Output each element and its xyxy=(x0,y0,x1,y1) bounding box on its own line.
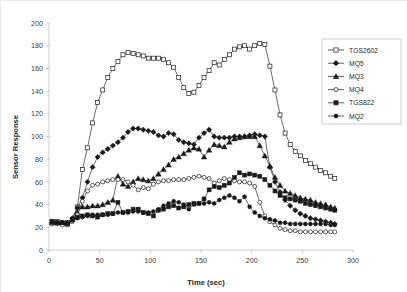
x-tick-label: 150 xyxy=(195,256,207,265)
data-point-marker xyxy=(106,75,110,79)
data-point-marker xyxy=(197,83,201,87)
data-point-marker xyxy=(308,203,312,207)
data-point-marker xyxy=(167,201,171,205)
x-tick-label: 250 xyxy=(296,256,308,265)
data-point-marker xyxy=(126,211,130,215)
data-point-marker xyxy=(329,207,333,211)
data-point-marker xyxy=(187,91,191,95)
y-tick-label: 80 xyxy=(35,155,43,164)
data-point-marker xyxy=(303,201,307,205)
data-point-marker xyxy=(121,211,125,215)
data-point-marker xyxy=(197,201,201,205)
data-point-marker xyxy=(258,214,262,218)
data-point-marker xyxy=(273,189,277,193)
data-point-marker xyxy=(156,180,160,184)
data-point-marker xyxy=(162,57,166,61)
data-point-marker xyxy=(288,222,292,226)
data-point-marker xyxy=(268,183,272,187)
data-point-marker xyxy=(131,183,135,187)
y-tick-label: 200 xyxy=(31,19,43,28)
data-point-marker xyxy=(172,199,176,203)
data-point-marker xyxy=(212,61,216,65)
data-point-marker xyxy=(182,178,186,182)
x-axis-title: Time (sec) xyxy=(187,278,225,287)
legend-label: MQ4 xyxy=(349,86,364,94)
data-point-marker xyxy=(258,200,262,204)
data-point-marker xyxy=(141,186,145,190)
data-point-marker xyxy=(278,113,282,117)
data-point-marker xyxy=(131,52,135,56)
data-point-marker xyxy=(50,221,54,225)
data-point-marker xyxy=(248,181,252,185)
data-point-marker xyxy=(283,221,287,225)
legend-label: TGS822 xyxy=(349,99,375,106)
chart-legend: TGS2602MQ5MQ3MQ4TGS822MQ2 xyxy=(322,39,401,124)
data-point-marker xyxy=(106,179,110,183)
data-point-marker xyxy=(253,173,257,177)
data-point-marker xyxy=(116,60,120,64)
data-point-marker xyxy=(278,226,282,230)
data-point-marker xyxy=(202,175,206,179)
data-point-marker xyxy=(238,180,242,184)
data-point-marker xyxy=(86,146,90,150)
data-point-marker xyxy=(96,182,100,186)
data-point-marker xyxy=(329,223,333,227)
data-point-marker xyxy=(207,69,211,73)
data-point-marker xyxy=(248,172,252,176)
data-point-marker xyxy=(91,183,95,187)
data-point-marker xyxy=(314,222,318,226)
data-point-marker xyxy=(141,54,145,58)
data-point-marker xyxy=(288,142,292,146)
data-point-marker xyxy=(80,167,84,171)
data-point-marker xyxy=(156,207,160,211)
data-point-marker xyxy=(187,176,191,180)
data-point-marker xyxy=(106,213,110,217)
data-point-marker xyxy=(293,229,297,233)
data-point-marker xyxy=(217,179,221,183)
y-tick-label: 60 xyxy=(35,178,43,187)
data-point-marker xyxy=(151,214,155,218)
data-point-marker xyxy=(283,131,287,135)
data-point-marker xyxy=(273,88,277,92)
y-tick-label: 180 xyxy=(31,41,43,50)
y-tick-label: 40 xyxy=(35,200,43,209)
data-point-marker xyxy=(116,200,120,204)
sensor-response-line-chart: 020406080100120140160180200 050100150200… xyxy=(1,1,407,292)
data-point-marker xyxy=(324,171,328,175)
data-point-marker xyxy=(319,169,323,173)
data-point-marker xyxy=(293,222,297,226)
data-point-marker xyxy=(156,56,160,60)
y-axis-title: Sensor Response xyxy=(11,115,20,179)
data-point-marker xyxy=(202,75,206,79)
y-tick-label: 140 xyxy=(31,87,43,96)
data-point-marker xyxy=(187,203,191,207)
data-point-marker xyxy=(314,230,318,234)
data-point-marker xyxy=(96,213,100,217)
data-point-marker xyxy=(146,187,150,191)
data-point-marker xyxy=(151,182,155,186)
data-point-marker xyxy=(253,184,257,188)
data-point-marker xyxy=(116,178,120,182)
data-point-marker xyxy=(187,207,191,211)
data-point-marker xyxy=(273,223,277,227)
data-point-marker xyxy=(333,176,337,180)
data-point-marker xyxy=(101,88,105,92)
data-point-marker xyxy=(136,209,140,213)
data-point-marker xyxy=(167,179,171,183)
data-point-marker xyxy=(217,63,221,67)
data-point-marker xyxy=(111,212,115,216)
data-point-marker xyxy=(126,51,130,55)
y-tick-label: 160 xyxy=(31,64,43,73)
data-point-marker xyxy=(308,162,312,166)
data-point-marker xyxy=(243,44,247,48)
data-point-marker xyxy=(162,204,166,208)
data-point-marker xyxy=(177,178,181,182)
data-point-marker xyxy=(75,216,79,220)
data-point-marker xyxy=(222,57,226,61)
data-point-marker xyxy=(314,165,318,169)
data-point-marker xyxy=(268,217,272,221)
data-point-marker xyxy=(217,198,221,202)
legend-label: MQ2 xyxy=(349,113,364,121)
data-point-marker xyxy=(116,211,120,215)
data-point-marker xyxy=(192,203,196,207)
